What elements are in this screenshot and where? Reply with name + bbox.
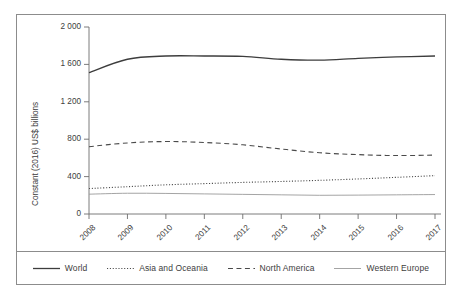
y-axis-tick-label: 1 200 xyxy=(17,97,81,106)
chart-legend: World Asia and Oceania North America Wes… xyxy=(16,252,446,285)
series-line-world xyxy=(89,56,435,73)
y-axis-title: Constant (2016) US$ billions xyxy=(31,102,40,206)
legend-line-icon-asia-and-oceania xyxy=(107,264,134,273)
legend-item-western-europe[interactable]: Western Europe xyxy=(334,263,429,273)
plot-area xyxy=(17,15,445,251)
figure-canvas: 04008001 2001 6002 000200820092010201120… xyxy=(0,0,463,293)
y-axis-tick-label: 2 000 xyxy=(17,22,81,31)
y-axis-tick-label: 800 xyxy=(17,134,81,143)
legend-item-asia-and-oceania[interactable]: Asia and Oceania xyxy=(107,263,208,273)
series-line-asia-and-oceania xyxy=(89,176,435,189)
y-axis-tick-label: 400 xyxy=(17,172,81,181)
series-line-western-europe xyxy=(89,193,435,195)
legend-line-icon-world xyxy=(33,264,60,273)
legend-line-icon-north-america xyxy=(228,264,255,273)
legend-label-asia-and-oceania: Asia and Oceania xyxy=(139,263,208,273)
y-axis-tick-label: 1 600 xyxy=(17,59,81,68)
legend-line-icon-western-europe xyxy=(334,264,361,273)
legend-label-north-america: North America xyxy=(260,263,315,273)
legend-item-north-america[interactable]: North America xyxy=(228,263,315,273)
legend-label-world: World xyxy=(65,263,88,273)
legend-item-world[interactable]: World xyxy=(33,263,88,273)
chart-panel: 04008001 2001 6002 000200820092010201120… xyxy=(16,14,446,252)
legend-label-western-europe: Western Europe xyxy=(366,263,429,273)
series-line-north-america xyxy=(89,142,435,156)
y-axis-tick-label: 0 xyxy=(17,209,81,218)
